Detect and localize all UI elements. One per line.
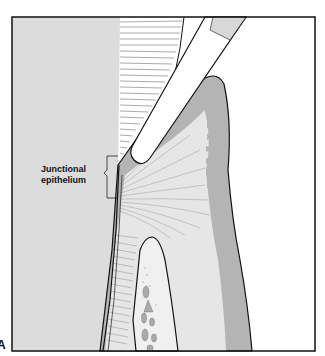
junctional-epithelium-label: Junctional epithelium — [41, 164, 86, 186]
panel-letter: A — [0, 338, 6, 352]
label-line-2: epithelium — [41, 175, 86, 186]
label-line-1: Junctional — [41, 164, 86, 175]
